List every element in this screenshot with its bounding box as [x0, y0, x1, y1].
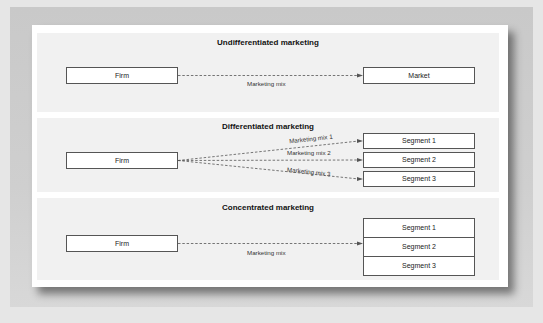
link-label: Marketing mix: [247, 249, 286, 256]
link-label: Marketing mix 2: [287, 149, 331, 156]
section-differentiated: Differentiated marketing Firm Segment 1 …: [37, 118, 499, 192]
section-undifferentiated: Undifferentiated marketing Firm Market M…: [37, 33, 499, 112]
arrow-icon: [37, 198, 499, 280]
arrow-icon: [37, 33, 499, 112]
diagram-panel: Undifferentiated marketing Firm Market M…: [32, 25, 508, 287]
arrow-icon: [37, 118, 499, 192]
link-label: Marketing mix: [247, 80, 286, 87]
section-concentrated: Concentrated marketing Firm Segment 1 Se…: [37, 198, 499, 280]
